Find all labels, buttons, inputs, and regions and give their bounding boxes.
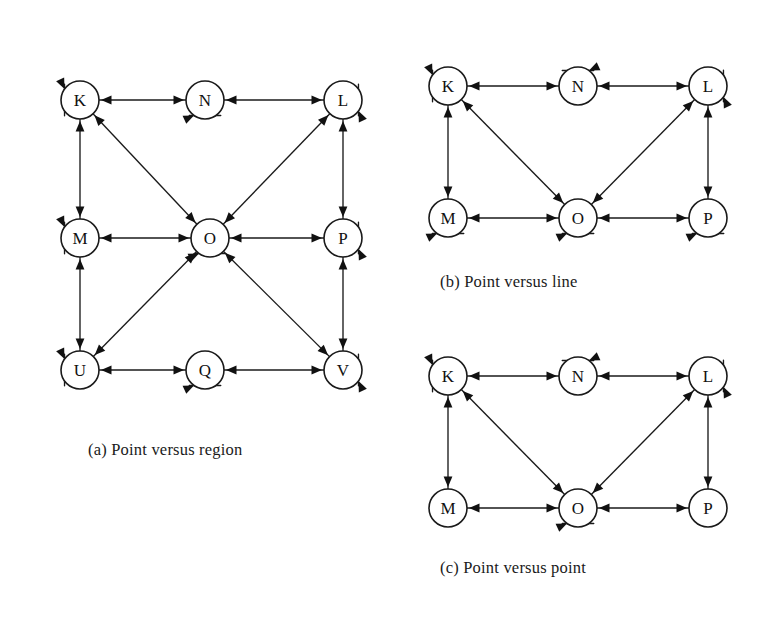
- arrow-head-icon-N-to-K: [101, 96, 112, 105]
- arrow-head-icon-M-to-K: [76, 121, 85, 132]
- node-label-c-K: K: [442, 367, 455, 386]
- arrow-head-icon-self-loop-N: [589, 352, 600, 360]
- node-label-a-L: L: [338, 91, 348, 110]
- node-label-a-Q: Q: [199, 361, 211, 380]
- arrow-head-icon-M-to-K: [444, 107, 453, 118]
- arrow-head-icon-O-to-P: [677, 214, 688, 223]
- arrow-head-icon-L-to-N: [599, 372, 610, 381]
- arrow-head-icon-Q-to-U: [101, 366, 112, 375]
- node-label-c-O: O: [572, 499, 584, 518]
- arrow-head-icon-self-loop-L: [723, 387, 731, 398]
- edge-K-O: [461, 390, 564, 495]
- arrow-head-icon-O-to-P: [312, 234, 323, 243]
- arrow-head-icon-L-to-N: [599, 82, 610, 91]
- arrow-head-icon-Q-to-V: [312, 366, 323, 375]
- arrow-head-icon-self-loop-U: [56, 348, 64, 359]
- arrow-head-icon-K-to-M: [444, 477, 453, 488]
- arrow-head-icon-self-loop-K: [424, 354, 432, 365]
- figure-root: KNLMOPUQVKNLMOPKNLMOP (a) Point versus r…: [0, 0, 784, 620]
- node-label-a-U: U: [74, 361, 86, 380]
- arrow-head-icon-self-loop-M: [426, 233, 437, 241]
- edge-L-O: [591, 100, 694, 205]
- arrow-head-icon-M-to-O: [547, 504, 558, 513]
- arrow-head-icon-O-to-M: [469, 214, 480, 223]
- arrow-head-icon-O-to-M: [101, 234, 112, 243]
- node-label-c-M: M: [440, 499, 455, 518]
- node-label-b-M: M: [440, 209, 455, 228]
- arrow-head-icon-K-to-N: [547, 82, 558, 91]
- edge-L-O: [591, 390, 694, 495]
- node-label-a-N: N: [199, 91, 211, 110]
- arrow-head-icon-K-to-M: [76, 207, 85, 218]
- arrow-head-icon-O-to-M: [469, 504, 480, 513]
- arrow-head-icon-L-to-N: [226, 96, 237, 105]
- arrow-head-icon-L-to-P: [704, 187, 713, 198]
- arrow-head-icon-self-loop-V: [358, 381, 366, 392]
- arrow-head-icon-N-to-K: [469, 82, 480, 91]
- arrow-head-icon-P-to-O: [599, 504, 610, 513]
- arrow-head-icon-P-to-O: [599, 214, 610, 223]
- edge-K-O: [93, 114, 197, 224]
- arrow-head-icon-K-to-N: [547, 372, 558, 381]
- arrow-head-icon-K-to-N: [174, 96, 185, 105]
- arrow-head-icon-self-loop-O: [556, 523, 567, 531]
- node-label-a-V: V: [337, 361, 350, 380]
- node-label-a-P: P: [338, 229, 347, 248]
- caption-panel-a: (a) Point versus region: [88, 440, 242, 460]
- arrow-head-icon-self-loop-L: [723, 97, 731, 108]
- node-label-b-K: K: [442, 77, 455, 96]
- edge-K-O: [461, 100, 564, 205]
- arrow-head-icon-self-loop-L: [358, 111, 366, 122]
- relation-graphs-canvas: KNLMOPUQVKNLMOPKNLMOP: [0, 0, 784, 620]
- caption-panel-c: (c) Point versus point: [440, 558, 586, 578]
- edge-L-O: [223, 114, 330, 225]
- arrow-head-icon-U-to-M: [76, 259, 85, 270]
- node-label-c-L: L: [703, 367, 713, 386]
- node-label-a-M: M: [72, 229, 87, 248]
- arrow-head-icon-self-loop-N: [589, 62, 600, 70]
- arrow-head-icon-P-to-L: [339, 121, 348, 132]
- arrow-head-icon-self-loop-K: [56, 78, 64, 89]
- arrow-head-icon-O-to-P: [677, 504, 688, 513]
- arrow-head-icon-P-to-V: [339, 339, 348, 350]
- arrow-head-icon-self-loop-Q: [183, 385, 194, 393]
- arrow-head-icon-self-loop-M: [56, 216, 64, 227]
- arrow-head-icon-V-to-Q: [226, 366, 237, 375]
- node-label-a-O: O: [204, 229, 216, 248]
- arrow-head-icon-M-to-U: [76, 339, 85, 350]
- node-label-b-L: L: [703, 77, 713, 96]
- arrow-head-icon-M-to-K: [444, 397, 453, 408]
- arrow-head-icon-self-loop-P: [686, 233, 697, 241]
- arrow-head-icon-N-to-L: [677, 372, 688, 381]
- arrow-head-icon-N-to-L: [677, 82, 688, 91]
- edge-V-O: [223, 251, 329, 356]
- caption-panel-b: (b) Point versus line: [440, 272, 578, 292]
- node-label-c-P: P: [703, 499, 712, 518]
- arrow-head-icon-N-to-K: [469, 372, 480, 381]
- node-label-b-O: O: [572, 209, 584, 228]
- node-label-b-P: P: [703, 209, 712, 228]
- arrow-head-icon-self-loop-K: [424, 64, 432, 75]
- arrow-head-icon-L-to-P: [704, 477, 713, 488]
- arrow-head-icon-K-to-M: [444, 187, 453, 198]
- arrow-head-icon-M-to-O: [179, 234, 190, 243]
- arrow-head-icon-V-to-P: [339, 259, 348, 270]
- arrow-head-icon-M-to-O: [547, 214, 558, 223]
- panel-c-nodes: KNLMOP: [429, 357, 727, 527]
- panel-b-nodes: KNLMOP: [429, 67, 727, 237]
- node-label-c-N: N: [572, 367, 584, 386]
- arrow-head-icon-P-to-L: [704, 107, 713, 118]
- edge-U-O: [93, 252, 196, 357]
- arrow-head-icon-self-loop-P: [358, 249, 366, 260]
- arrow-head-icon-N-to-L: [312, 96, 323, 105]
- node-label-b-N: N: [572, 77, 584, 96]
- panel-a-graph: KNLMOPUQV: [56, 78, 367, 394]
- arrow-head-icon-P-to-O: [231, 234, 242, 243]
- arrow-head-icon-self-loop-N: [183, 115, 194, 123]
- node-label-a-K: K: [74, 91, 87, 110]
- arrow-head-icon-U-to-Q: [174, 366, 185, 375]
- panel-b-graph: KNLMOP: [424, 62, 732, 242]
- arrow-head-icon-P-to-L: [704, 397, 713, 408]
- arrow-head-icon-self-loop-O: [556, 233, 567, 241]
- panel-c-graph: KNLMOP: [424, 352, 732, 532]
